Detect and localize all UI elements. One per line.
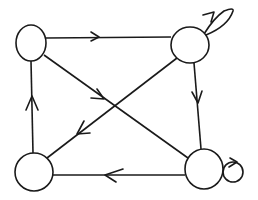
arrow-up-right-icon (203, 12, 214, 22)
self-loop-bottom-right (223, 158, 243, 182)
edge-bottom-right-to-bottom-left (53, 169, 185, 182)
node-bottom-right (185, 149, 223, 189)
arrow-right-icon (91, 32, 99, 41)
arrow-down-left-icon (77, 121, 90, 134)
self-loop-top-right (203, 9, 233, 35)
edge-top-left-to-top-right (46, 32, 171, 41)
node-top-left (16, 25, 46, 61)
graph-svg (0, 0, 258, 200)
graph-diagram (0, 0, 258, 200)
edge-top-left-to-bottom-right (44, 55, 188, 158)
edge-bottom-left-to-top-left (26, 61, 38, 153)
edge-top-right-to-bottom-right (192, 63, 202, 149)
node-bottom-left (15, 153, 53, 191)
node-top-right (171, 27, 209, 63)
edge-top-right-to-bottom-left (47, 58, 177, 158)
